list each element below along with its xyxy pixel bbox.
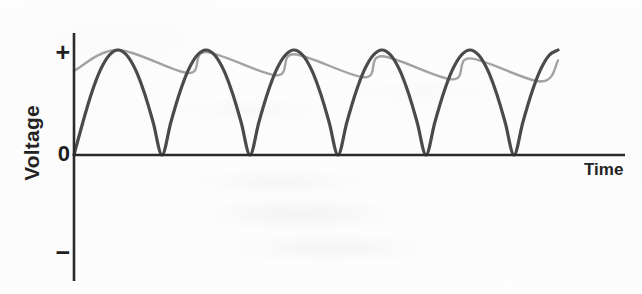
y-tick-label-positive: + xyxy=(46,40,70,65)
waveform-figure: Voltage Time + 0 − xyxy=(0,0,642,294)
y-tick-label-negative: − xyxy=(46,240,70,265)
y-tick-label-zero: 0 xyxy=(46,142,70,166)
waveform-chart xyxy=(0,0,642,294)
rectified-sine-curve xyxy=(74,50,558,155)
y-axis-label: Voltage xyxy=(21,87,43,199)
x-axis-label: Time xyxy=(584,160,623,180)
